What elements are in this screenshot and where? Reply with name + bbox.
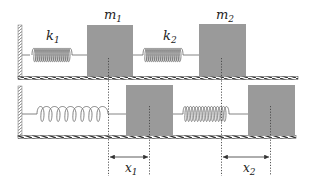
spring-k1 [22, 48, 87, 62]
spring-k1-stretched [22, 107, 126, 122]
bottom-row [18, 85, 296, 139]
top-row: k1 m1 k2 m2 [18, 7, 298, 80]
displacement-x1: x1 [110, 157, 148, 177]
displacement-x2-label: x2 [243, 161, 256, 177]
wall-top [18, 25, 22, 78]
spring-k2-compressed [173, 107, 248, 122]
spring-k2 [133, 48, 199, 62]
spring-k1-label: k1 [46, 28, 60, 45]
floor-top [18, 77, 298, 80]
mass-m1-top [87, 25, 133, 76]
spring-mass-diagram: k1 m1 k2 m2 [0, 0, 312, 186]
wall-bottom [18, 86, 22, 137]
spring-k2-label: k2 [163, 28, 177, 45]
mass-m1-label: m1 [104, 7, 122, 24]
mass-m2-top [199, 24, 246, 76]
mass-m2-label: m2 [216, 7, 234, 24]
displacement-x2: x2 [223, 157, 269, 177]
mass-m1-displaced [126, 85, 173, 136]
displacement-x1-label: x1 [125, 161, 138, 177]
mass-m2-displaced [248, 85, 295, 136]
